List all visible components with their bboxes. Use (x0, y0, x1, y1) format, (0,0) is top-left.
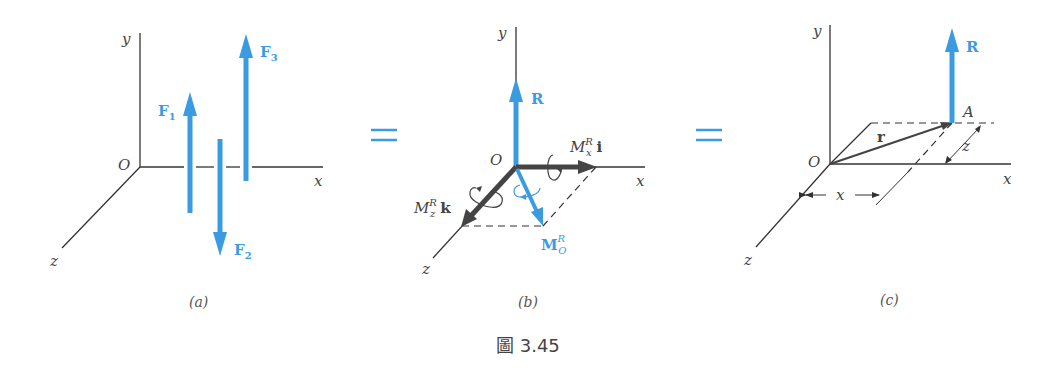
force-f2-label: F2 (234, 241, 252, 261)
moment-mx-arrow (516, 155, 597, 180)
dimension-z-label: z (961, 137, 970, 155)
resultant-r-label: R (531, 90, 544, 108)
z-axis (756, 164, 830, 247)
resultant-r-label: R (966, 38, 979, 56)
panel-c: r R A x z y O x z (c) (743, 22, 1012, 308)
force-f1-arrow (183, 92, 197, 213)
point-a-label: A (961, 103, 974, 121)
figure-3-45: y O x z F1 F2 F3 (a) (0, 0, 1059, 378)
y-axis-label: y (812, 22, 822, 40)
panel-a-label: (a) (189, 294, 208, 310)
force-f3-label: F3 (260, 43, 278, 63)
position-vector-r (830, 124, 948, 164)
extension-line (876, 172, 908, 205)
panel-b-label: (b) (518, 294, 538, 310)
origin-label: O (118, 156, 130, 174)
figure-caption: 圖 3.45 (496, 335, 560, 356)
moment-mo-label: MRO (541, 233, 566, 256)
resultant-r-arrow (945, 28, 959, 123)
equals-sign-1 (371, 130, 397, 140)
y-axis-label: y (497, 24, 507, 42)
z-axis-label: z (49, 252, 58, 270)
force-f2-arrow (213, 139, 227, 256)
z-axis (62, 167, 140, 248)
x-axis-label: x (1003, 170, 1012, 188)
x-axis-label: x (636, 172, 645, 190)
origin-label: O (808, 153, 820, 171)
dashed-guide (543, 167, 596, 226)
panel-c-label: (c) (880, 292, 899, 308)
panel-a: y O x z F1 F2 F3 (a) (49, 30, 323, 310)
panel-b: y O x z R MRxi MRzk (413, 24, 645, 310)
moment-mz-label: MRzk (413, 197, 451, 219)
x-axis-label: x (314, 172, 323, 190)
moment-mz-arrow (461, 167, 516, 227)
origin-label: O (490, 151, 502, 169)
equals-sign-2 (696, 130, 722, 140)
z-axis-label: z (421, 260, 430, 278)
force-f3-arrow (239, 34, 253, 181)
dimension-x-label: x (836, 186, 845, 204)
z-axis-label: z (743, 251, 752, 269)
force-f1-label: F1 (158, 102, 176, 122)
position-vector-r-label: r (877, 128, 886, 146)
moment-mo-arrow (514, 169, 543, 226)
moment-mx-label: MRxi (569, 136, 603, 158)
y-axis-label: y (121, 30, 131, 48)
resultant-r-arrow (509, 78, 523, 167)
